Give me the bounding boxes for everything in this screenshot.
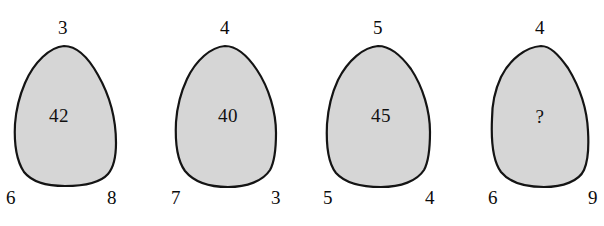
bottom-right-label-2: 3	[271, 188, 281, 207]
puzzle-shape-group-2: 4 40 7 3	[152, 0, 302, 226]
bottom-right-label-4: 9	[588, 188, 598, 207]
inner-value-3: 45	[371, 106, 391, 125]
bottom-left-label-4: 6	[488, 188, 498, 207]
puzzle-shape-group-3: 5 45 5 4	[304, 0, 454, 226]
puzzle-shape-group-4: 4 ? 6 9	[456, 0, 604, 226]
inner-value-1: 42	[49, 106, 69, 125]
top-label-4: 4	[535, 18, 545, 37]
dome-shape-4	[456, 0, 604, 226]
bottom-left-label-1: 6	[6, 188, 16, 207]
top-label-1: 3	[58, 18, 68, 37]
puzzle-shape-group-1: 3 42 6 8	[0, 0, 150, 226]
puzzle-figure: 3 42 6 8 4 40 7 3 5 45 5 4 4 ? 6 9	[0, 0, 604, 226]
bottom-right-label-1: 8	[107, 188, 117, 207]
top-label-2: 4	[220, 18, 230, 37]
bottom-right-label-3: 4	[425, 188, 435, 207]
dome-shape-1	[0, 0, 150, 226]
bottom-left-label-3: 5	[323, 188, 333, 207]
top-label-3: 5	[373, 18, 383, 37]
inner-value-4: ?	[536, 107, 545, 126]
inner-value-2: 40	[218, 106, 238, 125]
bottom-left-label-2: 7	[171, 188, 181, 207]
